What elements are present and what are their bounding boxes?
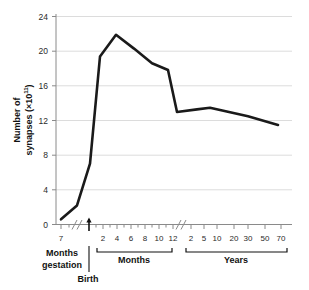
x-tick-label-year-5: 5	[202, 234, 207, 243]
y-tick-label-4: 4	[43, 185, 48, 195]
y-tick-label-8: 8	[43, 150, 48, 160]
y-tick-label-16: 16	[39, 81, 49, 91]
x-tick-label-month-6: 6	[129, 234, 134, 243]
y-axis-title-line2: synapses (×1011)	[23, 84, 34, 155]
x-tick-label-month-10: 10	[155, 234, 164, 243]
group-label-months-gestation-line1: Months	[46, 248, 78, 258]
y-tick-label-20: 20	[39, 46, 49, 56]
y-axis-title-suffix: )	[24, 84, 34, 87]
group-label-birth: Birth	[78, 274, 99, 284]
x-tick-label-year-20: 20	[230, 234, 239, 243]
x-tick-label-month-4: 4	[115, 234, 120, 243]
y-axis-title-line1: Number of	[12, 96, 22, 142]
y-axis-title-prefix: synapses (×10	[24, 94, 34, 156]
x-tick-label-year-10: 10	[213, 234, 222, 243]
x-tick-label-month-12: 12	[169, 234, 178, 243]
chart-background	[0, 0, 309, 290]
x-tick-label-gestation-7: 7	[59, 234, 64, 243]
group-label-months: Months	[118, 255, 150, 265]
group-label-months-gestation-line2: gestation	[42, 260, 82, 270]
synapse-density-chart: 24 20 16 12 8 4 0 Number of synapses (×1…	[0, 0, 309, 290]
x-tick-label-month-8: 8	[143, 234, 148, 243]
x-tick-label-year-70: 70	[277, 234, 286, 243]
group-label-years: Years	[224, 255, 248, 265]
x-tick-label-year-30: 30	[244, 234, 253, 243]
y-tick-label-0: 0	[43, 220, 48, 230]
x-tick-label-month-2: 2	[101, 234, 106, 243]
x-tick-label-year-50: 50	[261, 234, 270, 243]
y-tick-label-24: 24	[39, 12, 49, 22]
y-tick-label-12: 12	[39, 116, 49, 126]
x-tick-label-year-2: 2	[189, 234, 194, 243]
